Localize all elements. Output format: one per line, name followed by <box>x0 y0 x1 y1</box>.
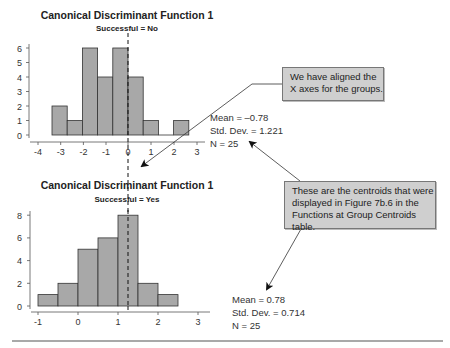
svg-text:6: 6 <box>17 44 22 54</box>
svg-text:-1: -1 <box>102 147 110 157</box>
svg-text:4: 4 <box>17 256 22 266</box>
stats-no: Mean = –0.78 Std. Dev. = 1.221 N = 25 <box>210 112 283 149</box>
x-axis-yes: -1 0 1 2 3 <box>31 312 210 327</box>
std-yes: Std. Dev. = 0.714 <box>232 307 305 318</box>
svg-text:3: 3 <box>195 317 200 327</box>
bar <box>78 249 98 306</box>
svg-text:-1: -1 <box>34 317 42 327</box>
svg-text:0: 0 <box>17 302 22 312</box>
bars-no <box>52 48 189 135</box>
chart-subtitle-no: Successful = No <box>96 24 158 33</box>
bar <box>98 238 118 306</box>
mean-no: Mean = –0.78 <box>210 112 268 123</box>
n-yes: N = 25 <box>232 320 260 331</box>
svg-text:5: 5 <box>17 58 22 68</box>
svg-text:0: 0 <box>75 317 80 327</box>
svg-text:0: 0 <box>17 131 22 141</box>
svg-text:4: 4 <box>17 73 22 83</box>
bar <box>138 283 158 306</box>
svg-text:2: 2 <box>155 317 160 327</box>
histogram-successful-yes: Canonical Discriminant Function 1 Succes… <box>17 179 305 331</box>
y-axis-no: 0 1 2 3 4 5 6 <box>17 44 29 141</box>
mean-yes: Mean = 0.78 <box>232 294 285 305</box>
svg-text:3: 3 <box>194 147 199 157</box>
y-axis-yes: 0 2 4 6 8 <box>17 211 30 312</box>
n-no: N = 25 <box>210 138 238 149</box>
svg-text:-3: -3 <box>57 147 65 157</box>
svg-text:1: 1 <box>115 317 120 327</box>
svg-text:2: 2 <box>17 279 22 289</box>
std-no: Std. Dev. = 1.221 <box>210 125 283 136</box>
svg-text:1: 1 <box>148 147 153 157</box>
svg-text:2: 2 <box>17 102 22 112</box>
bar <box>82 48 97 135</box>
chart-subtitle-yes: Successful = Yes <box>94 195 160 204</box>
arrow-centroid-yes <box>267 229 301 289</box>
x-axis-no: -4 -3 -2 -1 0 1 2 3 <box>30 142 205 157</box>
bar <box>67 121 82 136</box>
bar <box>128 77 143 135</box>
svg-text:2: 2 <box>171 147 176 157</box>
svg-text:3: 3 <box>17 87 22 97</box>
svg-text:-4: -4 <box>34 147 42 157</box>
bar <box>58 283 78 306</box>
bar <box>38 295 58 306</box>
histogram-successful-no: Canonical Discriminant Function 1 Succes… <box>17 9 283 157</box>
svg-text:8: 8 <box>17 211 22 221</box>
callout-centroids: These are the centroids that were displa… <box>284 181 436 229</box>
bar <box>113 48 128 135</box>
bar <box>143 121 158 136</box>
bar <box>98 77 113 135</box>
bars-yes <box>38 215 178 306</box>
svg-text:1: 1 <box>17 116 22 126</box>
svg-text:6: 6 <box>17 233 22 243</box>
figure-canvas: Canonical Discriminant Function 1 Succes… <box>0 0 450 348</box>
svg-text:-2: -2 <box>79 147 87 157</box>
arrow-centroid-no <box>250 142 300 181</box>
stats-yes: Mean = 0.78 Std. Dev. = 0.714 N = 25 <box>232 294 305 331</box>
bar <box>52 106 67 135</box>
chart-title-no: Canonical Discriminant Function 1 <box>41 9 214 21</box>
bar <box>158 295 178 306</box>
chart-title-yes: Canonical Discriminant Function 1 <box>41 179 214 191</box>
callout-aligned-axes: We have aligned the X axes for the group… <box>282 67 384 101</box>
